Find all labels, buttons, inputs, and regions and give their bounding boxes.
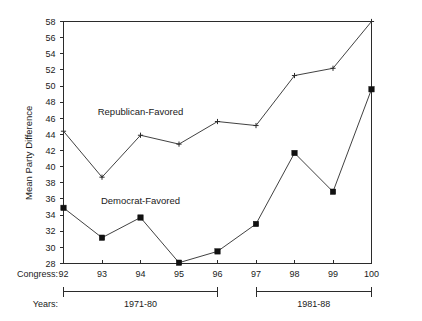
data-point-marker (369, 87, 374, 92)
y-tick-label: 42 (45, 146, 55, 156)
y-tick-label: 34 (45, 210, 55, 220)
series-annotation-label: Democrat-Favored (101, 195, 180, 206)
data-point-marker (330, 189, 335, 194)
congress-row-label: Congress: (17, 269, 58, 279)
y-tick-label: 36 (45, 194, 55, 204)
chart-figure: Mean Party Difference 283032343638404244… (0, 0, 422, 321)
data-point-marker (292, 150, 297, 155)
x-tick-label: 100 (364, 269, 379, 279)
data-point-marker (176, 260, 181, 265)
y-tick-label: 48 (45, 97, 55, 107)
chart-svg: Mean Party Difference 283032343638404244… (0, 0, 422, 321)
y-tick-label: 52 (45, 65, 55, 75)
y-tick-label: 50 (45, 81, 55, 91)
period-bracket-label: 1981-88 (297, 299, 330, 309)
y-tick-label: 40 (45, 162, 55, 172)
years-row-label: Years: (33, 299, 58, 309)
y-tick-label: 30 (45, 243, 55, 253)
x-tick-label: 92 (58, 269, 68, 279)
y-tick-label: 32 (45, 226, 55, 236)
y-tick-label: 46 (45, 114, 55, 124)
y-tick-label: 56 (45, 33, 55, 43)
y-axis-title: Mean Party Difference (23, 106, 34, 200)
x-tick-label: 99 (328, 269, 338, 279)
data-point-marker (138, 215, 143, 220)
x-tick-label: 97 (251, 269, 261, 279)
y-tick-label: 38 (45, 178, 55, 188)
x-tick-label: 98 (289, 269, 299, 279)
period-bracket-label: 1971-80 (124, 299, 157, 309)
x-tick-label: 93 (97, 269, 107, 279)
y-tick-label: 58 (45, 17, 55, 27)
series-annotation-label: Republican-Favored (98, 106, 184, 117)
data-point-marker (61, 205, 66, 210)
x-tick-label: 95 (174, 269, 184, 279)
data-point-marker (253, 221, 258, 226)
x-tick-label: 96 (212, 269, 222, 279)
data-point-marker (99, 235, 104, 240)
x-tick-label: 94 (135, 269, 145, 279)
y-tick-label: 54 (45, 49, 55, 59)
data-point-marker (215, 249, 220, 254)
y-tick-label: 44 (45, 130, 55, 140)
y-tick-label: 28 (45, 259, 55, 269)
